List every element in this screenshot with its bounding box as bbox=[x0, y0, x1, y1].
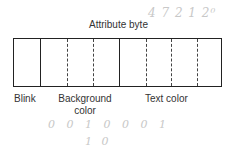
bit-divider bbox=[40, 39, 41, 86]
bit-divider bbox=[197, 39, 198, 86]
background-label-line2: color bbox=[50, 105, 120, 117]
text-color-label: Text color bbox=[145, 93, 188, 105]
handwritten-bits: 0 0 1 0 0 0 1 bbox=[48, 118, 170, 131]
handwritten-top-notes: 4 7 2 1 2⁰ bbox=[148, 6, 216, 20]
background-color-label: Background color bbox=[50, 93, 120, 117]
background-label-line1: Background bbox=[50, 93, 120, 105]
bit-divider bbox=[119, 39, 120, 86]
blink-label: Blink bbox=[14, 93, 36, 105]
handwritten-bottom: 1 0 bbox=[85, 135, 112, 148]
bit-divider bbox=[171, 39, 172, 86]
bit-divider bbox=[93, 39, 94, 86]
bit-divider bbox=[67, 39, 68, 86]
attribute-byte-box bbox=[13, 38, 222, 87]
bit-divider bbox=[146, 39, 147, 86]
attribute-byte-title: Attribute byte bbox=[0, 19, 237, 30]
